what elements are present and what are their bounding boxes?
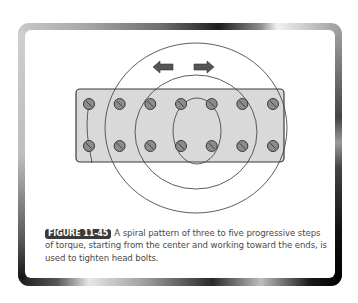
direction-arrows bbox=[153, 61, 214, 73]
arrow-left-icon bbox=[153, 61, 173, 73]
arrow-right-icon bbox=[194, 61, 214, 73]
figure-label: FIGURE 11-45 bbox=[45, 229, 111, 239]
figure-caption: FIGURE 11-45A spiral pattern of three to… bbox=[45, 227, 330, 264]
